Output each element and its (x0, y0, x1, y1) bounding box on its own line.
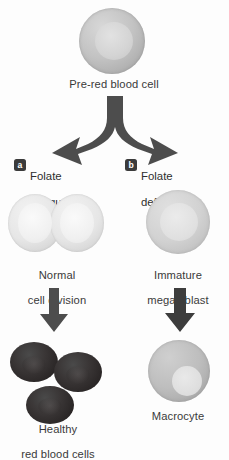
normal-daughter-cell-1-nucleus (18, 203, 52, 243)
branch-badge-a: a (14, 159, 26, 171)
healthy-red-blood-cell-2-dimple (66, 366, 90, 384)
down-arrow-left (39, 288, 69, 332)
pre-red-blood-cell-caption: Pre-red blood cell (34, 78, 194, 91)
immature-megaloblast-nucleus (160, 203, 198, 241)
pre-red-blood-cell-nucleus (95, 22, 133, 60)
macrocyte-caption: Macrocyte (127, 410, 229, 423)
healthy-red-blood-cells-caption: Healthy red blood cells (2, 410, 114, 460)
normal-daughter-cell-2-nucleus (60, 203, 94, 243)
down-arrow-right (164, 288, 196, 332)
megaloblast-caption-line1: Immature (154, 269, 202, 281)
healthy-caption-line2: red blood cells (21, 448, 95, 460)
macrocyte-pale-center (172, 366, 202, 396)
branch-badge-b: b (125, 159, 137, 171)
branch-label-a-line1: Folate (30, 170, 62, 182)
healthy-red-blood-cell-1-dimple (22, 356, 46, 374)
branch-label-b-line1: Folate (141, 170, 173, 182)
normal-caption-line1: Normal (39, 269, 76, 281)
healthy-caption-line1: Healthy (39, 423, 78, 435)
